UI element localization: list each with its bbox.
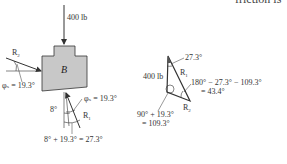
- reaction-r2-arrow: [6, 58, 41, 71]
- angle-bottom-label: φₛ = 19.3°: [84, 94, 117, 103]
- angle-bottom-left-label-2: = 109.3°: [142, 119, 170, 128]
- angle-top-label: 27.3°: [185, 53, 202, 62]
- angle-arc-right: [181, 91, 183, 97]
- block-label: B: [61, 64, 67, 75]
- reaction-r1-label: R1: [83, 111, 91, 121]
- force-triangle: 400 lb R1 R2 27.3° 180° − 27.3° − 109.3°…: [137, 53, 262, 128]
- angle-right-label-1: 180° − 27.3° − 109.3°: [191, 78, 262, 87]
- angle-incline-label: 8°: [50, 105, 57, 114]
- angle-bottom-left-label-1: 90° + 19.3°: [137, 110, 174, 119]
- side-400lb-label: 400 lb: [143, 72, 163, 81]
- reaction-r2-label: R2: [12, 48, 20, 58]
- header-text: friction is: [235, 0, 282, 6]
- angle-left-label: φₛ = 19.3°: [2, 81, 35, 90]
- angle-arc-left: [14, 61, 17, 71]
- side-r2-label: R2: [183, 103, 191, 113]
- angle-right-label-2: = 43.4°: [201, 87, 225, 96]
- free-body-diagram: B 400 lb R2 φₛ = 19.3° R1 φₛ = 19.3° 8° …: [2, 5, 117, 144]
- angle-sum-label: 8° + 19.3° = 27.3°: [44, 135, 103, 144]
- applied-force-label: 400 lb: [67, 13, 87, 22]
- diagram-canvas: friction is B 400 lb R2 φₛ = 19.3° R1 φₛ…: [0, 0, 287, 164]
- leader-line-right: [184, 84, 191, 92]
- leader-line-bottom-left: [158, 93, 168, 111]
- leader-line-top: [171, 58, 184, 64]
- leader-line-left: [17, 64, 22, 82]
- leader-line-friction: [73, 99, 82, 111]
- side-r1-label: R1: [180, 68, 188, 78]
